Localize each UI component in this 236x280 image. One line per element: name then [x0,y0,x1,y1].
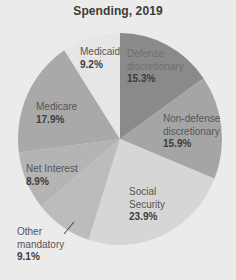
label-medicaid: Medicaid 9.2% [80,46,120,71]
label-social-security: Social Security 23.9% [129,186,165,224]
label-non-defense: Non-defense discretionary 15.9% [163,113,220,151]
label-medicare: Medicare 17.9% [36,101,77,126]
label-other-mandatory: Other mandatory 9.1% [17,226,64,264]
label-net-interest: Net Interest 8.9% [26,163,78,188]
label-defense: Defense discretionary 15.3% [127,48,184,86]
